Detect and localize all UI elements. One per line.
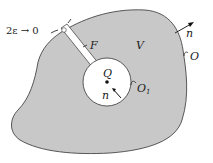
label-f: F [89,39,98,52]
label-q: Q [103,67,112,80]
label-outer-n: n [186,27,193,40]
label-cut-width: 2ε → 0 [6,25,39,36]
leader-o [184,52,188,56]
label-v: V [136,39,145,52]
label-inner-n: n [102,89,109,102]
label-o1-sub: 1 [146,88,150,96]
point-q [105,80,109,84]
label-o1-main: O [137,82,146,95]
diagram-canvas: 2ε → 0 F V n O Q n O1 [0,0,213,163]
label-o: O [190,50,199,63]
